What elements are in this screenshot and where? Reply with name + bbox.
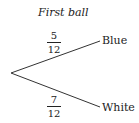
blue-label: Blue <box>102 34 127 47</box>
white-label: White <box>102 101 135 114</box>
white-probability: 7 12 <box>46 94 62 119</box>
probability-tree: First ball 5 12 Blue 7 12 White <box>0 0 139 123</box>
tree-title: First ball <box>38 6 89 19</box>
blue-probability: 5 12 <box>46 30 62 55</box>
